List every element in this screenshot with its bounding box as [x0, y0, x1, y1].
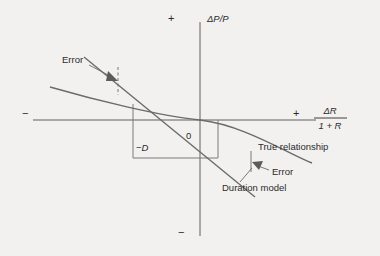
x-axis-negative-sign: − — [22, 107, 28, 119]
x-axis-label-denominator: 1 + R — [319, 120, 342, 131]
origin-label: 0 — [186, 130, 191, 141]
figure-canvas: + − − + ΔP/P ΔR 1 + R 0 −D Error Error T… — [0, 0, 380, 256]
error-left-label: Error — [62, 54, 83, 65]
error-left-leader — [89, 65, 110, 76]
error-right-arrowhead — [252, 161, 263, 170]
y-axis-label: ΔP/P — [206, 13, 229, 24]
duration-model-figure: + − − + ΔP/P ΔR 1 + R 0 −D Error Error T… — [0, 0, 380, 256]
true-relationship-label: True relationship — [258, 141, 328, 152]
duration-model-leader — [240, 168, 252, 182]
x-axis-positive-sign: + — [293, 107, 299, 119]
x-axis-label-numerator: ΔR — [322, 105, 336, 116]
slope-label: −D — [136, 142, 149, 153]
duration-model-label: Duration model — [222, 182, 286, 193]
error-left-arrowhead — [106, 71, 118, 81]
y-axis-positive-sign: + — [168, 12, 174, 24]
y-axis-negative-sign: − — [178, 226, 184, 238]
error-right-label: Error — [272, 166, 293, 177]
